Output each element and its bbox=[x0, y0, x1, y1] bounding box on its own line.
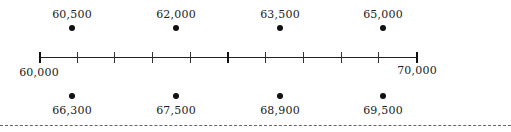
tick-mark bbox=[303, 52, 304, 63]
tick-mark bbox=[114, 52, 115, 63]
tick-mark bbox=[152, 52, 153, 63]
top-point-label: 65,000 bbox=[363, 9, 403, 21]
top-point-label: 62,000 bbox=[156, 9, 196, 21]
bottom-point-dot bbox=[380, 93, 386, 99]
end-label: 70,000 bbox=[397, 65, 437, 77]
top-point-dot bbox=[277, 25, 283, 31]
top-point-dot bbox=[380, 25, 386, 31]
bottom-point-label: 67,500 bbox=[156, 105, 196, 117]
tick-mark bbox=[190, 52, 191, 63]
bottom-point-dot bbox=[173, 93, 179, 99]
tick-mark bbox=[378, 52, 379, 63]
start-label: 60,000 bbox=[19, 67, 59, 79]
top-point-label: 63,500 bbox=[260, 9, 300, 21]
bottom-point-dot bbox=[277, 93, 283, 99]
tick-mark bbox=[265, 52, 266, 63]
top-point-label: 60,500 bbox=[52, 9, 92, 21]
bottom-point-label: 68,900 bbox=[260, 105, 300, 117]
tick-mark-middle bbox=[227, 52, 229, 63]
top-point-dot bbox=[173, 25, 179, 31]
tick-mark bbox=[77, 52, 78, 63]
bottom-point-label: 66,300 bbox=[52, 105, 92, 117]
dashed-separator bbox=[0, 125, 511, 126]
tick-mark bbox=[39, 52, 41, 63]
tick-mark bbox=[416, 52, 418, 63]
top-point-dot bbox=[69, 25, 75, 31]
bottom-point-label: 69,500 bbox=[363, 105, 403, 117]
bottom-point-dot bbox=[69, 93, 75, 99]
tick-mark bbox=[341, 52, 342, 63]
